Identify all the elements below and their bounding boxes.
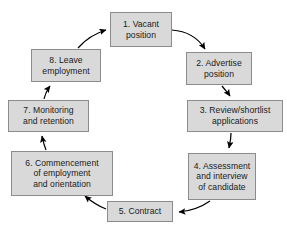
node-4-line1: 4. Assessment: [192, 161, 253, 172]
node-leave-employment[interactable]: 8. Leaveemployment: [31, 49, 101, 82]
arrow-6-to-7: [42, 136, 46, 150]
node-vacant-position[interactable]: 1. Vacantposition: [110, 12, 172, 47]
arrow-2-to-3: [222, 86, 230, 96]
cycle-diagram: 1. Vacantposition 2. Advertiseposition 3…: [0, 0, 287, 230]
node-7-line1: 7. Monitoring: [21, 105, 76, 116]
node-8-text: 8. Leaveemployment: [38, 55, 93, 76]
node-4-line3: of candidate: [192, 182, 253, 193]
node-6-line2: of employment: [23, 168, 100, 179]
node-advertise-position[interactable]: 2. Advertiseposition: [186, 52, 252, 85]
node-2-line2: position: [194, 69, 244, 80]
node-4-text: 4. Assessmentand interviewof candidate: [190, 161, 255, 193]
node-3-line1: 3. Review/shortlist: [198, 105, 273, 116]
arrow-1-to-2: [172, 30, 205, 49]
node-6-text: 6. Commencementof employmentand orientat…: [21, 158, 102, 190]
arrow-7-to-8: [44, 86, 50, 99]
arrow-8-to-1: [78, 30, 106, 48]
node-8-line2: employment: [40, 66, 91, 77]
node-1-line2: position: [121, 30, 161, 41]
node-review-shortlist-applications[interactable]: 3. Review/shortlistapplications: [187, 100, 283, 132]
node-8-line1: 8. Leave: [40, 55, 91, 66]
node-6-line1: 6. Commencement: [23, 158, 100, 169]
node-3-text: 3. Review/shortlistapplications: [196, 105, 275, 126]
node-assessment-interview[interactable]: 4. Assessmentand interviewof candidate: [188, 153, 256, 200]
node-2-line1: 2. Advertise: [194, 58, 244, 69]
node-7-line2: and retention: [21, 116, 76, 127]
node-5-text: 5. Contract: [115, 206, 166, 217]
arrow-4-to-5: [179, 201, 210, 212]
node-1-line1: 1. Vacant: [121, 19, 161, 30]
arrow-5-to-6: [85, 196, 106, 209]
node-2-text: 2. Advertiseposition: [192, 58, 246, 79]
node-5-line1: 5. Contract: [117, 206, 164, 217]
node-4-line2: and interview: [192, 171, 253, 182]
node-3-line2: applications: [198, 116, 273, 127]
node-commencement-employment-orientation[interactable]: 6. Commencementof employmentand orientat…: [11, 151, 113, 196]
node-contract[interactable]: 5. Contract: [107, 201, 173, 222]
node-6-line3: and orientation: [23, 179, 100, 190]
arrow-3-to-4: [229, 133, 231, 148]
node-7-text: 7. Monitoringand retention: [19, 105, 78, 126]
node-monitoring-retention[interactable]: 7. Monitoringand retention: [8, 100, 89, 132]
node-1-text: 1. Vacantposition: [119, 19, 163, 40]
